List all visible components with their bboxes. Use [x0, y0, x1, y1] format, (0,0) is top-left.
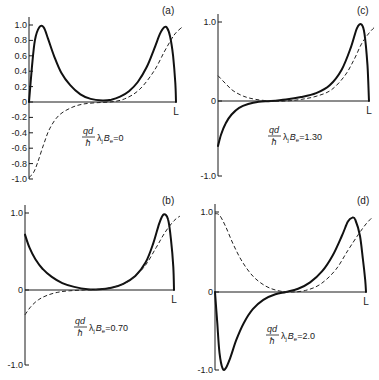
panel-a: 1.00.80.60.40.20-0.2-0.4-0.6-0.8-1.0L(a)… — [11, 5, 181, 184]
formula-numerator: qd — [75, 316, 86, 326]
x-end-label: L — [171, 294, 177, 305]
y-tick-label: -1.0 — [200, 171, 216, 181]
formula-rest: λjBe=2.0 — [281, 331, 315, 342]
y-tick-label: 0 — [18, 285, 23, 295]
y-tick-label: 0.8 — [14, 35, 27, 45]
formula-numerator: qd — [269, 125, 280, 135]
y-tick-label: 1.0 — [203, 17, 216, 27]
y-tick-label: -1.0 — [7, 360, 23, 370]
formula-rest: λjBe=0.70 — [89, 323, 128, 334]
x-end-label: L — [363, 296, 369, 307]
y-tick-label: 0 — [22, 97, 27, 107]
dashed-curve — [215, 214, 372, 292]
formula-denominator: ħ — [85, 138, 90, 148]
panel-b: 1.00-1.0L(b)qdħλjBe=0.70 — [7, 195, 180, 370]
formula-label: qdħλjBe=2.0 — [266, 324, 315, 346]
panel-d: 1.00-1.0L(d)qdħλjBe=2.0 — [197, 195, 372, 375]
y-tick-label: -0.4 — [11, 128, 27, 138]
y-tick-label: 0.6 — [14, 51, 27, 61]
y-tick-label: 0.4 — [14, 66, 27, 76]
formula-label: qdħλjBe=0 — [82, 126, 123, 148]
y-tick-label: 0 — [211, 96, 216, 106]
formula-rest: λjBe=0 — [97, 133, 123, 144]
solid-curve — [215, 217, 366, 370]
solid-curve — [25, 214, 174, 290]
dashed-curve — [218, 27, 375, 102]
formula-rest: λjBe=1.30 — [283, 132, 322, 143]
formula-denominator: ħ — [271, 137, 276, 147]
formula-denominator: ħ — [269, 336, 274, 346]
panel-label: (a) — [162, 5, 174, 16]
formula-label: qdħλjBe=0.70 — [74, 316, 128, 338]
y-tick-label: 0 — [208, 287, 213, 297]
panel-label: (b) — [162, 195, 174, 206]
x-end-label: L — [366, 105, 372, 116]
y-tick-label: 1.0 — [200, 207, 213, 217]
y-tick-label: 1.0 — [10, 208, 23, 218]
panel-label: (d) — [357, 195, 369, 206]
figure: 1.00.80.60.40.20-0.2-0.4-0.6-0.8-1.0L(a)… — [0, 0, 379, 380]
formula-numerator: qd — [83, 126, 94, 136]
formula-label: qdħλjBe=1.30 — [268, 125, 322, 147]
solid-curve — [218, 24, 369, 146]
y-tick-label: -0.8 — [11, 159, 27, 169]
solid-curve — [29, 26, 176, 102]
formula-denominator: ħ — [77, 328, 82, 338]
y-tick-label: -0.2 — [11, 112, 27, 122]
y-tick-label: 0.2 — [14, 82, 27, 92]
panel-label: (c) — [357, 5, 369, 16]
y-tick-label: -1.0 — [11, 174, 27, 184]
y-tick-label: -0.6 — [11, 143, 27, 153]
x-end-label: L — [173, 106, 179, 117]
y-tick-label: 1.0 — [14, 20, 27, 30]
y-tick-label: -1.0 — [197, 365, 213, 375]
formula-numerator: qd — [267, 324, 278, 334]
panel-c: 1.00-1.0L(c)qdħλjBe=1.30 — [200, 5, 375, 181]
